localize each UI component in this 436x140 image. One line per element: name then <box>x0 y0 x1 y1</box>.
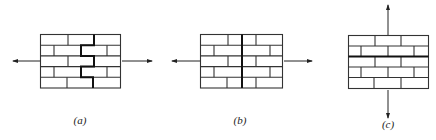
panel-c-wall <box>349 36 429 89</box>
panel-c-label: (c) <box>382 118 394 130</box>
panel-a-label: (a) <box>74 114 87 126</box>
brick-wall-tension-diagram <box>0 0 436 140</box>
panel-a-stepped-crack <box>81 35 94 89</box>
panel-a-wall <box>41 35 121 89</box>
panel-b-label: (b) <box>234 114 247 126</box>
